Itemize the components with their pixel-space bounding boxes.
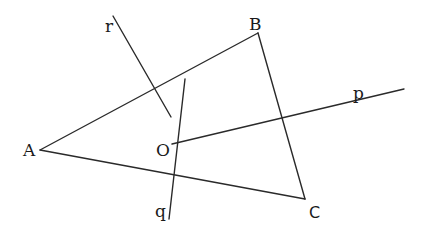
line-q (169, 79, 185, 219)
label-p: p (353, 83, 364, 103)
label-o: O (156, 140, 170, 160)
line-p (172, 89, 404, 144)
label-c: C (309, 203, 320, 222)
label-r: r (105, 16, 114, 36)
geometry-diagram: r B p A O q C (0, 0, 426, 238)
line-r (113, 16, 171, 117)
label-a: A (22, 140, 36, 160)
diagram-svg: r B p A O q C (0, 0, 426, 238)
segment-ab (40, 33, 258, 150)
label-b: B (249, 14, 262, 34)
segment-bc (258, 33, 305, 199)
label-q: q (155, 201, 166, 221)
